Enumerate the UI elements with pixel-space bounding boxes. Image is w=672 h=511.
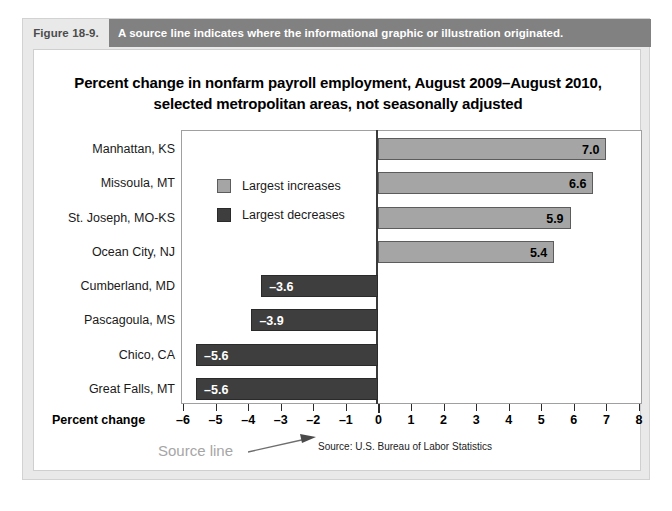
source-line: Source: U.S. Bureau of Labor Statistics: [318, 441, 492, 452]
category-label: Ocean City, NJ: [35, 241, 175, 263]
x-tick-label: 5: [538, 413, 545, 427]
chart-legend: Largest increases Largest decreases: [217, 178, 345, 236]
x-tick-label: –3: [274, 413, 288, 427]
x-tick-label: 2: [440, 413, 447, 427]
x-tick: [313, 404, 314, 411]
bar-value-label: –3.9: [259, 310, 283, 332]
bar-decrease: –5.6: [196, 378, 378, 400]
plot-area: 7.06.65.95.4–3.6–3.9–5.6–5.6 Largest inc…: [181, 130, 642, 404]
legend-swatch-decreases-icon: [217, 208, 231, 222]
x-tick: [281, 404, 282, 411]
category-label: Cumberland, MD: [35, 275, 175, 297]
x-tick: [444, 404, 445, 411]
x-tick: [639, 404, 640, 411]
x-tick-label: 0: [375, 413, 382, 427]
x-tick-label: 8: [636, 413, 643, 427]
x-tick-label: 4: [505, 413, 512, 427]
bar-value-label: –3.6: [269, 276, 293, 298]
figure-number-label: Figure 18-9.: [23, 19, 109, 47]
legend-swatch-increases-icon: [217, 179, 231, 193]
bar-value-label: 5.4: [530, 242, 547, 264]
x-tick: [606, 404, 607, 411]
category-label: Great Falls, MT: [35, 378, 175, 400]
x-tick: [248, 404, 249, 411]
x-tick-label: –6: [176, 413, 190, 427]
figure-container: Figure 18-9. A source line indicates whe…: [22, 18, 650, 480]
x-tick: [216, 404, 217, 411]
x-tick-label: 1: [408, 413, 415, 427]
bar-value-label: 7.0: [582, 139, 599, 161]
chart-title: Percent change in nonfarm payroll employ…: [34, 72, 642, 114]
x-tick-label: 7: [603, 413, 610, 427]
x-tick: [346, 404, 347, 411]
chart-card: Percent change in nonfarm payroll employ…: [33, 49, 641, 471]
figure-caption-text: A source line indicates where the inform…: [109, 19, 651, 47]
x-tick: [183, 404, 184, 411]
category-label: St. Joseph, MO-KS: [35, 207, 175, 229]
category-label: Missoula, MT: [35, 172, 175, 194]
bar-increase: 5.9: [378, 207, 570, 229]
x-tick-label: –2: [306, 413, 320, 427]
figure-caption-bar: Figure 18-9. A source line indicates whe…: [23, 19, 651, 47]
annotation-arrow-icon: [248, 428, 318, 456]
x-tick: [574, 404, 575, 411]
chart-title-line-1: Percent change in nonfarm payroll employ…: [34, 72, 642, 93]
bar-increase: 6.6: [378, 172, 593, 194]
category-axis-labels: Manhattan, KSMissoula, MTSt. Joseph, MO-…: [34, 130, 175, 404]
x-tick: [378, 404, 380, 413]
x-tick-label: –4: [241, 413, 255, 427]
x-tick: [541, 404, 542, 411]
x-axis-title: Percent change: [52, 413, 145, 427]
bar-value-label: –5.6: [204, 379, 228, 401]
x-tick: [476, 404, 477, 411]
legend-label-increases: Largest increases: [242, 179, 341, 193]
x-tick-label: –5: [209, 413, 223, 427]
bar-value-label: 6.6: [569, 173, 586, 195]
category-label: Chico, CA: [35, 344, 175, 366]
category-label: Manhattan, KS: [35, 138, 175, 160]
legend-label-decreases: Largest decreases: [242, 208, 345, 222]
bar-decrease: –5.6: [196, 344, 378, 366]
x-tick-label: –1: [339, 413, 353, 427]
bar-decrease: –3.6: [261, 275, 378, 297]
x-tick-label: 3: [473, 413, 480, 427]
x-tick: [509, 404, 510, 411]
bar-decrease: –3.9: [251, 309, 378, 331]
bar-increase: 7.0: [378, 138, 606, 160]
bar-increase: 5.4: [378, 241, 554, 263]
chart-title-line-2: selected metropolitan areas, not seasona…: [34, 93, 642, 114]
legend-item-increases: Largest increases: [217, 178, 345, 194]
legend-item-decreases: Largest decreases: [217, 207, 345, 223]
x-tick-label: 6: [570, 413, 577, 427]
annotation-label: Source line: [158, 442, 233, 459]
bar-value-label: –5.6: [204, 345, 228, 367]
x-tick: [411, 404, 412, 411]
category-label: Pascagoula, MS: [35, 309, 175, 331]
bar-value-label: 5.9: [546, 208, 563, 230]
